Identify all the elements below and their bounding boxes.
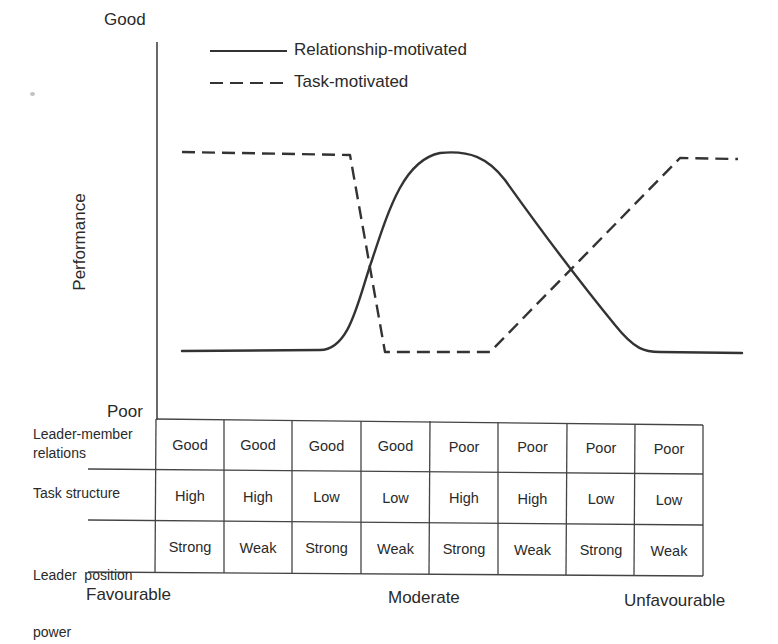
scan-smudge — [30, 92, 35, 96]
table-cell: High — [430, 472, 498, 523]
table-cell: Good — [292, 421, 361, 471]
x-label-unfavourable: Unfavourable — [624, 591, 725, 611]
table-cell: Strong — [156, 521, 224, 573]
table-cell: High — [224, 471, 292, 522]
table-cell: Good — [361, 421, 430, 471]
y-axis-title: Performance — [70, 192, 90, 292]
table-cell: Good — [156, 420, 224, 470]
table-cell: Strong — [430, 523, 498, 575]
legend-task-motivated: Task-motivated — [294, 72, 408, 92]
table-cell: Weak — [498, 524, 567, 576]
x-label-moderate: Moderate — [388, 588, 460, 608]
table-cell: Poor — [498, 422, 567, 472]
row-label-leader-member-relations: Leader-member relations — [33, 425, 133, 463]
table-cell: Strong — [567, 524, 635, 576]
y-axis-bottom-label: Poor — [107, 402, 143, 422]
table-cell: High — [498, 473, 567, 524]
table-cell: Low — [361, 472, 430, 523]
table-cell: Weak — [635, 525, 703, 577]
table-cell: High — [156, 470, 224, 521]
table-cell: Low — [292, 471, 361, 522]
table-cell: Weak — [224, 522, 292, 574]
table-cell: Good — [224, 420, 292, 470]
y-axis-top-label: Good — [104, 10, 146, 30]
table-cell: Weak — [361, 523, 430, 575]
table-cell: Strong — [292, 522, 361, 574]
table-cell: Poor — [430, 422, 498, 472]
table-cell: Poor — [567, 423, 635, 473]
table-cell: Low — [635, 474, 703, 525]
task-motivated-line — [182, 152, 738, 352]
legend-relationship-motivated: Relationship-motivated — [294, 40, 467, 60]
row-label-task-structure: Task structure — [33, 484, 120, 503]
relationship-motivated-line — [182, 152, 742, 353]
table-cell: Low — [567, 473, 635, 524]
x-label-favourable: Favourable — [86, 585, 171, 605]
table-cell: Poor — [635, 424, 703, 474]
